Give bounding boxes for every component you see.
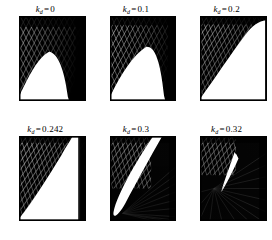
panel-title-value-6: 0.32 <box>226 124 243 134</box>
plot-canvas-3 <box>201 17 266 100</box>
panel-title-value-5: 0.3 <box>137 124 149 134</box>
panel-title-4: kd=0.242 <box>0 124 91 137</box>
plot-canvas-2 <box>111 17 176 100</box>
plot-axes-2: 0.6 0.5 0.4 0.3 0.2 0.1 0 -0.2 0 0.2 0.4… <box>110 16 177 101</box>
plot-canvas-5 <box>111 137 176 220</box>
plot-axes-1: 0.6 0.5 0.4 0.3 0.2 0.1 0 -0.2 0 0.2 0.4… <box>19 16 86 101</box>
panel-title-3: kd=0.2 <box>181 4 272 17</box>
figure-panel-grid: kd=0 <box>0 0 272 240</box>
subplot-panel-4: kd=0.242 <box>0 120 91 240</box>
plot-axes-5: 0.6 0.5 0.4 0.3 0.2 0.1 0 -0.2 0 0.2 0.4… <box>110 136 177 221</box>
plot-canvas-6 <box>201 137 266 220</box>
plot-axes-4: 0.6 0.5 0.4 0.3 0.2 0.1 0 -0.2 0 0.2 0.4… <box>19 136 86 221</box>
panel-title-2: kd=0.1 <box>91 4 182 17</box>
panel-title-5: kd=0.3 <box>91 124 182 137</box>
subplot-grid: kd=0 <box>0 0 272 240</box>
panel-title-relation-6: = <box>218 124 225 134</box>
panel-title-value-3: 0.2 <box>228 4 240 14</box>
plot-axes-3: 0.6 0.5 0.4 0.3 0.2 0.1 0 -0.2 0 0.2 0.4… <box>200 16 267 101</box>
plot-canvas-4 <box>20 137 85 220</box>
subplot-panel-3: kd=0.2 <box>181 0 272 120</box>
panel-title-value-4: 0.242 <box>42 124 63 134</box>
subplot-panel-2: kd=0.1 <box>91 0 182 120</box>
subplot-panel-1: kd=0 <box>0 0 91 120</box>
panel-title-value-1: 0 <box>50 4 55 14</box>
plot-axes-6: 0.6 0.5 0.4 0.3 0.2 0.1 0 -0.2 0 0.2 0.4… <box>200 136 267 221</box>
panel-title-value-2: 0.1 <box>137 4 149 14</box>
panel-title-6: kd=0.32 <box>181 124 272 137</box>
subplot-panel-6: kd=0.32 <box>181 120 272 240</box>
panel-title-relation-3: = <box>221 4 228 14</box>
panel-title-relation-4: = <box>35 124 42 134</box>
subplot-panel-5: kd=0.3 <box>91 120 182 240</box>
plot-canvas-1 <box>20 17 85 100</box>
panel-title-1: kd=0 <box>0 4 91 17</box>
